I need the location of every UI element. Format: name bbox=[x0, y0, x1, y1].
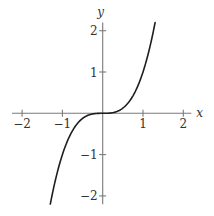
x-tick-label: 2 bbox=[179, 117, 187, 131]
x-tick-label: 1 bbox=[139, 117, 147, 131]
cubic-function-plot: −2−11221−1−2 x y bbox=[0, 0, 214, 216]
y-tick-label: 1 bbox=[90, 66, 98, 80]
x-axis-label: x bbox=[196, 106, 203, 120]
x-tick-label: −2 bbox=[13, 117, 31, 131]
y-tick-label: −2 bbox=[80, 189, 98, 203]
y-tick-label: 2 bbox=[90, 24, 98, 38]
y-axis-label: y bbox=[96, 5, 104, 19]
y-tick-label: −1 bbox=[80, 148, 98, 162]
x-tick-label: −1 bbox=[54, 117, 72, 131]
